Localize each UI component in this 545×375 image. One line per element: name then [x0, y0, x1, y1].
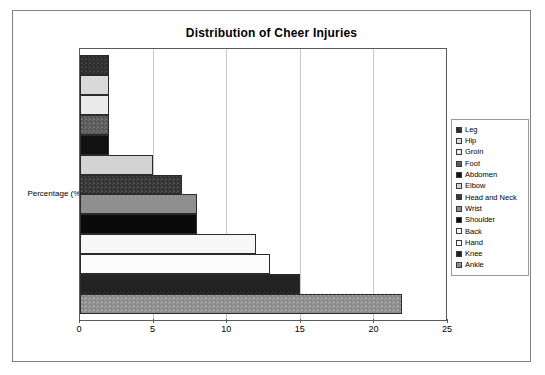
x-tick-label: 10 [221, 324, 231, 334]
legend-item-label: Leg [465, 126, 478, 134]
bar-row [80, 254, 446, 274]
bar-row [80, 155, 446, 175]
plot-area [79, 48, 447, 321]
legend-swatch-icon [456, 138, 462, 144]
bar-elbow[interactable] [80, 155, 153, 175]
bar-head-and-neck[interactable] [80, 175, 182, 195]
legend-swatch-icon [456, 240, 462, 246]
bar-row [80, 95, 446, 115]
x-tick-mark [153, 319, 154, 323]
x-tick-label: 0 [76, 324, 81, 334]
bar-row [80, 194, 446, 214]
legend-swatch-icon [456, 194, 462, 200]
legend-item-foot[interactable]: Foot [456, 158, 525, 169]
legend-item-knee[interactable]: Knee [456, 248, 525, 259]
legend-item-label: Hip [465, 137, 476, 145]
legend-swatch-icon [456, 251, 462, 257]
bar-shoulder[interactable] [80, 214, 197, 234]
legend-item-groin[interactable]: Groin [456, 147, 525, 158]
legend-item-label: Ankle [465, 261, 484, 269]
x-tick-label: 5 [150, 324, 155, 334]
bar-hand[interactable] [80, 254, 270, 274]
bar-row [80, 175, 446, 195]
legend-item-shoulder[interactable]: Shoulder [456, 214, 525, 225]
legend-swatch-icon [456, 127, 462, 133]
bar-row [80, 135, 446, 155]
y-axis-title: Percentage (%) [21, 189, 83, 198]
legend-item-abdomen[interactable]: Abdomen [456, 169, 525, 180]
legend-swatch-icon [456, 228, 462, 234]
legend-swatch-icon [456, 183, 462, 189]
bar-groin[interactable] [80, 95, 109, 115]
bar-row [80, 55, 446, 75]
bar-row [80, 234, 446, 254]
bar-foot[interactable] [80, 115, 109, 135]
legend-swatch-icon [456, 206, 462, 212]
legend-item-ankle[interactable]: Ankle [456, 260, 525, 271]
x-tick-mark [300, 319, 301, 323]
legend-item-head-and-neck[interactable]: Head and Neck [456, 192, 525, 203]
legend-item-label: Abdomen [465, 171, 497, 179]
legend-item-wrist[interactable]: Wrist [456, 203, 525, 214]
legend-item-label: Foot [465, 160, 480, 168]
x-axis: 0510152025 [79, 324, 447, 340]
legend-item-label: Shoulder [465, 216, 495, 224]
legend-item-leg[interactable]: Leg [456, 124, 525, 135]
bar-row [80, 274, 446, 294]
x-tick-label: 20 [368, 324, 378, 334]
bar-row [80, 214, 446, 234]
legend-swatch-icon [456, 149, 462, 155]
bar-row [80, 115, 446, 135]
legend-item-hand[interactable]: Hand [456, 237, 525, 248]
bar-ankle[interactable] [80, 294, 402, 314]
bar-row [80, 75, 446, 95]
legend-item-label: Wrist [465, 205, 482, 213]
legend-item-label: Hand [465, 239, 483, 247]
legend-item-back[interactable]: Back [456, 226, 525, 237]
x-tick-mark [79, 319, 80, 323]
bar-back[interactable] [80, 234, 256, 254]
legend-swatch-icon [456, 217, 462, 223]
chart-legend: LegHipGroinFootAbdomenElbowHead and Neck… [451, 119, 529, 276]
chart-frame: Distribution of Cheer Injuries Percentag… [12, 10, 531, 362]
x-tick-label: 15 [295, 324, 305, 334]
legend-swatch-icon [456, 262, 462, 268]
x-tick-mark [373, 319, 374, 323]
legend-item-label: Knee [465, 250, 483, 258]
legend-item-label: Groin [465, 148, 483, 156]
legend-item-elbow[interactable]: Elbow [456, 180, 525, 191]
legend-item-label: Head and Neck [465, 194, 517, 202]
x-tick-mark [447, 319, 448, 323]
x-tick-label: 25 [442, 324, 452, 334]
bar-knee[interactable] [80, 274, 300, 294]
bar-series [80, 49, 446, 320]
legend-swatch-icon [456, 161, 462, 167]
bar-hip[interactable] [80, 75, 109, 95]
x-tick-mark [226, 319, 227, 323]
bar-wrist[interactable] [80, 194, 197, 214]
legend-item-label: Elbow [465, 182, 485, 190]
bar-abdomen[interactable] [80, 135, 109, 155]
legend-swatch-icon [456, 172, 462, 178]
bar-leg[interactable] [80, 55, 109, 75]
legend-item-hip[interactable]: Hip [456, 135, 525, 146]
bar-row [80, 294, 446, 314]
chart-title: Distribution of Cheer Injuries [13, 26, 530, 40]
legend-item-label: Back [465, 228, 482, 236]
